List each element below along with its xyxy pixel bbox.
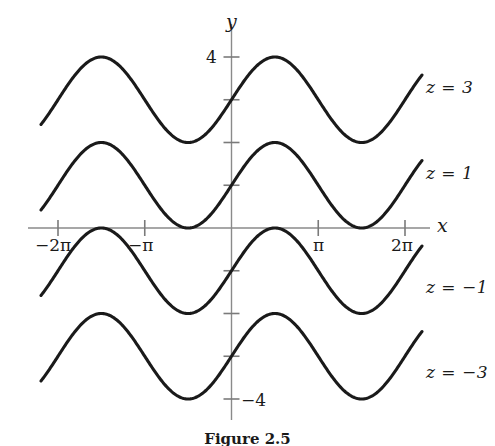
curve-label-z-minus-1: z = −1 bbox=[426, 279, 488, 296]
x-tick-label-pi: π bbox=[313, 237, 324, 254]
x-tick-label-minus-pi: −π bbox=[128, 237, 153, 254]
x-axis-label: x bbox=[437, 216, 448, 235]
curve-label-z-minus-3: z = −3 bbox=[426, 364, 488, 381]
curve-label-z-1: z = 1 bbox=[426, 165, 473, 182]
plot-canvas bbox=[0, 0, 495, 446]
figure-caption: Figure 2.5 bbox=[0, 430, 495, 446]
figure-container: y x −2π −π π 2π 4 −4 z = 3 z = 1 z = −1 … bbox=[0, 0, 495, 446]
x-tick-label-2pi: 2π bbox=[391, 237, 413, 254]
curve-label-z-3: z = 3 bbox=[426, 79, 473, 96]
y-tick-label-4: 4 bbox=[206, 49, 217, 66]
y-tick-label-minus-4: −4 bbox=[241, 392, 266, 409]
x-tick-label-minus-2pi: −2π bbox=[35, 237, 71, 254]
y-axis-label: y bbox=[226, 12, 237, 31]
